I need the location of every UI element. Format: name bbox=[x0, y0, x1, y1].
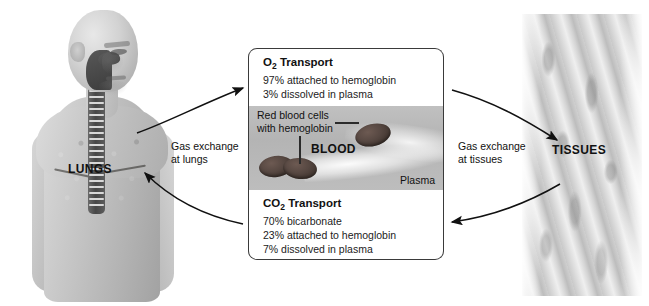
trachea bbox=[88, 86, 105, 214]
red-blood-cell-label: Red blood cells with hemoglobin bbox=[257, 109, 333, 135]
rbc-leader-line-horizontal bbox=[335, 122, 359, 124]
plasma-label: Plasma bbox=[400, 174, 435, 186]
o2-transport-title: O2 Transport bbox=[263, 56, 443, 71]
co2-title-prefix: CO bbox=[263, 197, 280, 209]
tissue-edge-fade bbox=[620, 14, 642, 296]
co2-transport-title: CO2 Transport bbox=[263, 197, 443, 212]
gas-transport-diagram: LUNGS TISSUES O2 Transport 97% attached … bbox=[0, 0, 649, 306]
o2-transport-box: O2 Transport 97% attached to hemoglobin … bbox=[248, 48, 444, 106]
transport-panel-stack: O2 Transport 97% attached to hemoglobin … bbox=[248, 48, 446, 260]
lungs-label: LUNGS bbox=[68, 162, 112, 176]
rbc-label-line-2: with hemoglobin bbox=[257, 122, 333, 135]
ear bbox=[70, 42, 85, 62]
rbc-label-line-1: Red blood cells bbox=[257, 109, 333, 122]
co2-line-3: 7% dissolved in plasma bbox=[263, 243, 443, 256]
nose bbox=[102, 52, 124, 74]
gas-exchange-at-tissues-label: Gas exchange at tissues bbox=[458, 140, 526, 166]
o2-title-suffix: Transport bbox=[277, 56, 333, 68]
rbc-leader-line-vertical bbox=[299, 136, 301, 164]
co2-transport-box: CO2 Transport 70% bicarbonate 23% attach… bbox=[248, 190, 444, 260]
gas-exchange-tissues-line-1: Gas exchange bbox=[458, 140, 526, 153]
chin bbox=[98, 80, 128, 96]
blood-vessel-panel: Red blood cells with hemoglobin BLOOD Pl… bbox=[248, 106, 444, 190]
blood-label: BLOOD bbox=[311, 142, 356, 156]
human-respiratory-illustration: LUNGS bbox=[18, 2, 188, 304]
o2-line-2: 3% dissolved in plasma bbox=[263, 88, 443, 101]
gas-exchange-lungs-line-1: Gas exchange bbox=[171, 140, 239, 153]
co2-line-1: 70% bicarbonate bbox=[263, 215, 443, 228]
gas-exchange-lungs-line-2: at lungs bbox=[171, 153, 239, 166]
o2-title-prefix: O bbox=[263, 56, 272, 68]
co2-title-suffix: Transport bbox=[285, 197, 341, 209]
gas-exchange-tissues-line-2: at tissues bbox=[458, 153, 526, 166]
gas-exchange-at-lungs-label: Gas exchange at lungs bbox=[171, 140, 239, 166]
o2-line-1: 97% attached to hemoglobin bbox=[263, 74, 443, 87]
tissues-label: TISSUES bbox=[552, 143, 606, 157]
co2-line-2: 23% attached to hemoglobin bbox=[263, 229, 443, 242]
